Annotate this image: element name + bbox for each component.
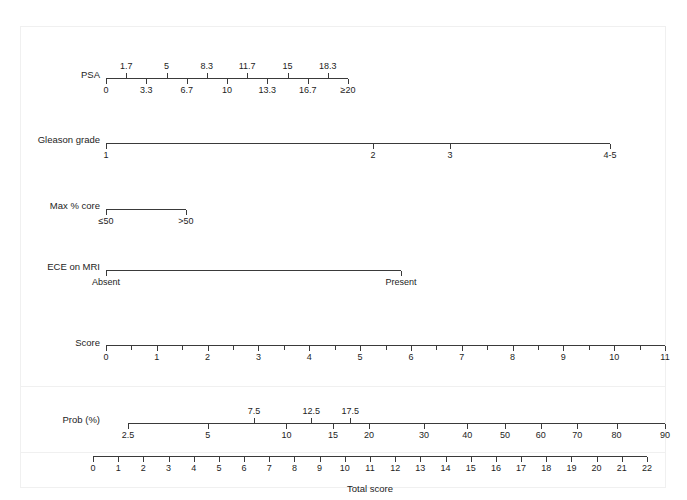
tick-label: 4-5 [603,150,616,160]
axis-tick [395,457,396,462]
tick-label: 8 [292,463,297,473]
axis-tick [471,457,472,462]
axis-tick [462,346,463,351]
axis-tick-minor [233,346,234,350]
tick-label: 80 [612,430,622,440]
axis-tick-minor [640,346,641,350]
tick-label: 3 [256,352,261,362]
axis-tick [267,79,268,84]
tick-label: 7 [267,463,272,473]
axis-tick [505,424,506,429]
axis-tick [563,346,564,351]
panel-border [20,26,666,488]
axis-tick [258,346,259,351]
tick-label: 16 [491,463,501,473]
tick-label: 30 [419,430,429,440]
axis-tick [665,346,666,351]
tick-label: 5 [216,463,221,473]
axis-endcap-right [401,271,402,276]
tick-label: 4 [191,463,196,473]
tick-label: 17 [516,463,526,473]
axis-tick [219,457,220,462]
tick-label: 10 [281,430,291,440]
nomogram-figure: PSA 03.36.71013.316.7≥201.758.311.71518.… [0,0,687,500]
axis-tick [541,424,542,429]
tick-label: Present [385,277,416,287]
axis-endcap-right [665,424,666,429]
axis-line [106,270,401,271]
tick-label: 2 [141,463,146,473]
tick-label: 10 [222,85,232,95]
tick-label: 21 [617,463,627,473]
axis-tick [254,418,255,423]
tick-label: 0 [103,85,108,95]
tick-label: 12 [390,463,400,473]
axis-tick [513,346,514,351]
axis-tick [617,424,618,429]
axis-tick [247,73,248,78]
row-label-psa: PSA [0,69,100,80]
tick-label: 3 [447,150,452,160]
axis-tick [360,346,361,351]
axis-tick [496,457,497,462]
tick-label: 5 [358,352,363,362]
axis-tick [269,457,270,462]
axis-tick [647,457,648,462]
axis-endcap-left [106,79,107,84]
axis-tick [370,457,371,462]
axis-tick-minor [182,346,183,350]
axis-tick [308,79,309,84]
tick-label: 20 [364,430,374,440]
tick-label: 15 [282,61,292,71]
axis-tick [369,424,370,429]
axis-tick [157,346,158,351]
axis-tick [207,73,208,78]
axis-tick [622,457,623,462]
axis-tick [311,418,312,423]
axis-tick-minor [538,346,539,350]
axis-tick [286,424,287,429]
axis-tick [577,424,578,429]
axis-tick [597,457,598,462]
axis-endcap-left [106,271,107,276]
tick-label: 9 [317,463,322,473]
tick-label: ≥20 [341,85,356,95]
tick-label: 4 [307,352,312,362]
axis-endcap-right [348,79,349,84]
tick-label: 2 [371,150,376,160]
tick-label: 6.7 [180,85,193,95]
tick-label: 0 [90,463,95,473]
axis-tick [106,346,107,351]
axis-tick-minor [386,346,387,350]
axis-endcap-right [186,210,187,215]
axis-tick [227,79,228,84]
row-label-probability: Prob (%) [0,414,100,425]
axis-tick-minor [436,346,437,350]
tick-label: 2.5 [122,430,135,440]
tick-label: >50 [178,216,193,226]
axis-tick [309,346,310,351]
tick-label: 70 [572,430,582,440]
axis-endcap-left [128,424,129,429]
axis-endcap-left [106,210,107,215]
axis-tick-minor [487,346,488,350]
axis-tick [187,79,188,84]
tick-label: Absent [92,277,120,287]
row-label-score: Score [0,337,100,348]
tick-label: 15 [466,463,476,473]
axis-tick [350,418,351,423]
tick-label: 3.3 [140,85,153,95]
tick-label: 22 [642,463,652,473]
tick-label: 5 [164,61,169,71]
tick-label: 6 [408,352,413,362]
tick-label: 1 [116,463,121,473]
tick-label: 16.7 [299,85,317,95]
tick-label: 13 [415,463,425,473]
tick-label: 6 [242,463,247,473]
axis-line [106,143,610,144]
axis-tick [143,457,144,462]
tick-label: 9 [561,352,566,362]
axis-tick [420,457,421,462]
axis-tick [571,457,572,462]
tick-label: 19 [566,463,576,473]
